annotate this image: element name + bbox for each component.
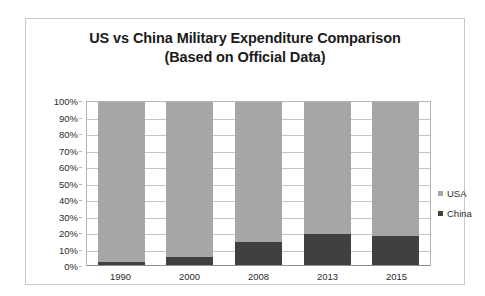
y-axis-tick-mark <box>79 233 82 234</box>
legend-swatch-icon <box>438 191 443 196</box>
chart-legend: USAChina <box>438 186 485 226</box>
x-axis-tick-label: 1990 <box>86 271 155 282</box>
chart-title-line-1: US vs China Military Expenditure Compari… <box>26 29 464 48</box>
bar-segment-usa[interactable] <box>98 102 145 262</box>
bar-group-2008[interactable] <box>224 102 293 265</box>
legend-label: China <box>447 208 472 219</box>
chart-title: US vs China Military Expenditure Compari… <box>26 29 464 67</box>
bar-segment-china[interactable] <box>166 257 213 265</box>
y-axis-tick-label: 100% <box>54 96 78 107</box>
bar-segment-china[interactable] <box>98 262 145 265</box>
bar-stack <box>372 102 419 265</box>
x-axis-tick-label: 2015 <box>362 271 431 282</box>
y-axis-tick-label: 70% <box>59 145 78 156</box>
bar-stack <box>98 102 145 265</box>
bar-group-2013[interactable] <box>293 102 362 265</box>
y-axis-tick-label: 60% <box>59 162 78 173</box>
bar-group-2015[interactable] <box>361 102 430 265</box>
y-axis-tick-label: 30% <box>59 211 78 222</box>
y-axis: 100%90%80%70%60%50%40%30%20%10%0% <box>38 101 82 266</box>
chart-frame: US vs China Military Expenditure Compari… <box>25 18 465 285</box>
legend-label: USA <box>447 188 467 199</box>
y-axis-tick-mark <box>79 167 82 168</box>
bar-segment-usa[interactable] <box>235 102 282 242</box>
x-axis: 19902000200820132015 <box>86 271 431 282</box>
bar-segment-usa[interactable] <box>372 102 419 236</box>
bar-group-1990[interactable] <box>87 102 156 265</box>
y-axis-tick-mark <box>79 101 82 102</box>
y-axis-tick-label: 0% <box>64 261 78 272</box>
chart-title-line-2: (Based on Official Data) <box>26 48 464 67</box>
legend-swatch-icon <box>438 211 443 216</box>
x-axis-tick-label: 2000 <box>155 271 224 282</box>
y-axis-tick-mark <box>79 250 82 251</box>
bar-stack <box>166 102 213 265</box>
y-axis-tick-mark <box>79 266 82 267</box>
bar-segment-china[interactable] <box>235 242 282 265</box>
y-axis-tick-mark <box>79 118 82 119</box>
bar-segment-china[interactable] <box>304 234 351 265</box>
bar-segment-china[interactable] <box>372 236 419 265</box>
plot-area <box>86 101 431 266</box>
bar-segment-usa[interactable] <box>166 102 213 257</box>
bars-layer <box>87 102 430 265</box>
legend-item-usa[interactable]: USA <box>438 186 485 201</box>
y-axis-tick-mark <box>79 151 82 152</box>
legend-item-china[interactable]: China <box>438 206 485 221</box>
y-axis-tick-label: 40% <box>59 195 78 206</box>
y-axis-tick-mark <box>79 217 82 218</box>
y-axis-tick-mark <box>79 184 82 185</box>
x-axis-tick-label: 2013 <box>293 271 362 282</box>
y-axis-tick-mark <box>79 200 82 201</box>
y-axis-tick-label: 20% <box>59 228 78 239</box>
x-axis-tick-label: 2008 <box>224 271 293 282</box>
y-axis-tick-label: 80% <box>59 129 78 140</box>
bar-group-2000[interactable] <box>156 102 225 265</box>
bar-segment-usa[interactable] <box>304 102 351 234</box>
y-axis-tick-label: 50% <box>59 178 78 189</box>
y-axis-tick-label: 10% <box>59 244 78 255</box>
y-axis-tick-label: 90% <box>59 112 78 123</box>
bar-stack <box>304 102 351 265</box>
y-axis-tick-mark <box>79 134 82 135</box>
bar-stack <box>235 102 282 265</box>
